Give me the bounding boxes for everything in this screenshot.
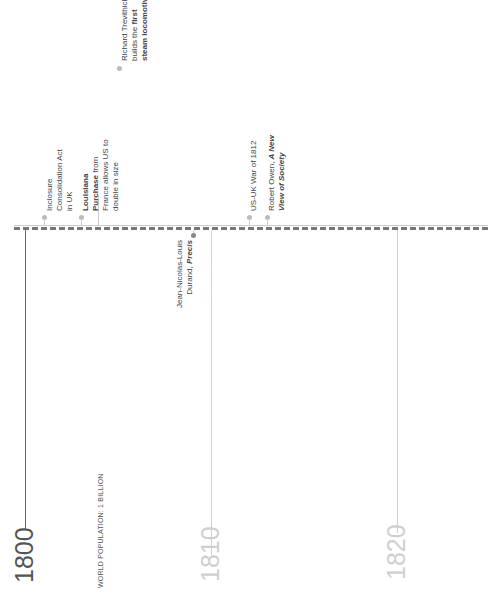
- year-1800-label: 1800: [12, 527, 37, 583]
- year-1810-line: [211, 230, 212, 555]
- event-stem: [44, 219, 45, 226]
- event-trevithick-locomotive: Richard Trevithick builds the first stea…: [120, 0, 150, 61]
- event-dot: [191, 233, 196, 238]
- axis-guide: [14, 225, 488, 226]
- timeline-axis: [14, 227, 488, 230]
- event-stem: [81, 219, 82, 226]
- event-louisiana-purchase: Louisiana Purchase from France allows US…: [81, 139, 121, 211]
- event-robert-owen: Robert Owen, A New View of Society: [267, 135, 287, 211]
- population-note: WORLD POPULATION: 1 BILLION: [96, 473, 106, 588]
- event-durand-precis: Jean-Nicolas-Louis Durand, Precis: [175, 240, 195, 322]
- event-us-uk-war-1812: US-UK War of 1812: [249, 141, 259, 211]
- year-1820-line: [397, 230, 398, 533]
- event-dot: [117, 66, 122, 71]
- event-stem: [267, 219, 268, 226]
- event-inclosure-act: Inclosure Consolidation Act in UK: [45, 149, 75, 211]
- year-1810-label: 1810: [198, 526, 223, 582]
- year-1820-label: 1820: [384, 524, 409, 580]
- event-stem: [249, 219, 250, 226]
- year-1800-line: [25, 230, 26, 530]
